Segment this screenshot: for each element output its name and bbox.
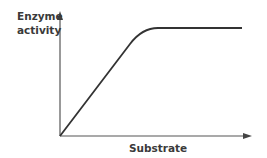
activity-curve	[60, 28, 242, 136]
y-axis-label-line-1: Enzyme	[17, 9, 63, 23]
x-axis-arrow-icon	[243, 133, 252, 139]
x-axis-label: Substrate concentration	[129, 141, 267, 158]
y-axis-label: Enzyme activity	[17, 9, 63, 37]
y-axis-label-line-2: activity	[17, 23, 63, 37]
